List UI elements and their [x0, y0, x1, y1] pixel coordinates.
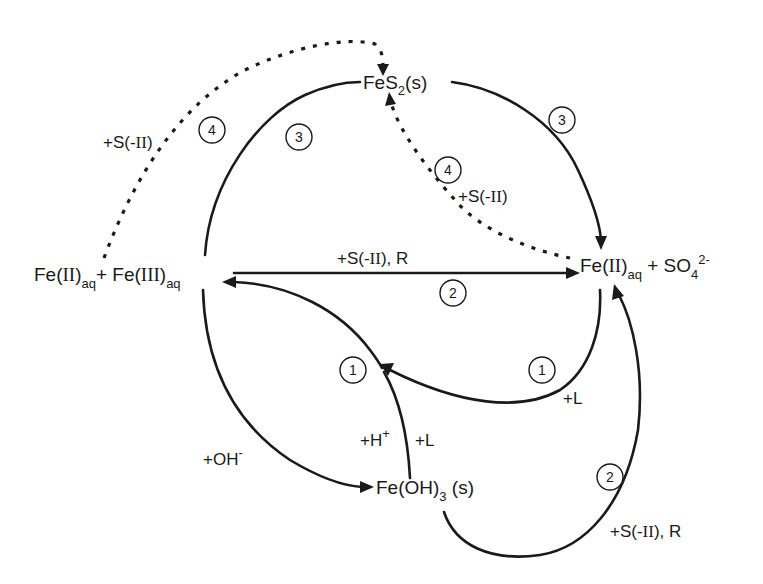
step-badge-3-left: 3	[286, 124, 312, 150]
step-badge-1-right: 1	[529, 357, 555, 383]
svg-text:2: 2	[606, 469, 614, 485]
reagent-s2-r-top: +S(-II), R	[337, 249, 408, 268]
arrowhead-into-feoh3	[360, 481, 374, 493]
step-badge-4-left: 4	[199, 117, 225, 143]
svg-text:4: 4	[444, 162, 452, 178]
pathway-1-up	[384, 372, 410, 478]
arrowhead-into-fe2-top	[595, 236, 607, 250]
svg-text:3: 3	[295, 129, 303, 145]
node-fe2-fe3-aq: Fe(II)aq+ Fe(III)aq	[34, 264, 181, 291]
reagent-ligand-center: +L	[415, 431, 434, 450]
reagent-s2-top-left: +S(-II)	[103, 133, 153, 152]
reagent-s2-r-bottom: +S(-II), R	[610, 522, 681, 541]
pathway-2-bottom	[444, 295, 640, 557]
reagent-s2-mid: +S(-II)	[458, 187, 508, 206]
reagent-ligand-right: +L	[563, 389, 582, 408]
iron-sulfur-reaction-diagram: FeS2(s) Fe(II)aq+ Fe(III)aq Fe(II)aq + S…	[0, 0, 763, 584]
arrowhead-into-fe2-left	[566, 267, 580, 279]
pathway-3-left	[205, 82, 360, 255]
svg-text:4: 4	[208, 122, 216, 138]
svg-text:3: 3	[558, 112, 566, 128]
arrowhead-into-fe3	[222, 276, 236, 288]
pathway-3-right	[452, 82, 601, 240]
node-feoh3: Fe(OH)3 (s)	[376, 477, 474, 504]
node-fe2-so4: Fe(II)aq + SO42-	[580, 252, 710, 282]
reagent-proton: +H+	[360, 426, 390, 450]
pathway-1-right	[390, 290, 600, 403]
step-badge-1-left: 1	[340, 357, 366, 383]
pathway-1-return-upper	[234, 282, 382, 368]
node-fes2: FeS2(s)	[363, 72, 427, 98]
reagent-hydroxide: +OH-	[203, 445, 243, 469]
svg-text:2: 2	[449, 285, 457, 301]
step-badge-3-right: 3	[549, 107, 575, 133]
arrowhead-into-fe2-bottom	[612, 284, 624, 300]
step-badge-4-mid: 4	[435, 157, 461, 183]
step-badge-2-bottom: 2	[597, 464, 623, 490]
arrowhead-into-fes2-bottom	[385, 92, 396, 106]
svg-text:1: 1	[349, 362, 357, 378]
svg-text:1: 1	[538, 362, 546, 378]
step-badge-2-top: 2	[440, 280, 466, 306]
